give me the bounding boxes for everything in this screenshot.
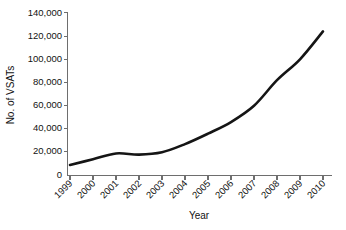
y-tick-label: 120,000	[28, 30, 62, 41]
y-tick-label: 80,000	[33, 76, 62, 87]
y-tick-label: 100,000	[28, 53, 62, 64]
y-tick-label: 140,000	[28, 7, 62, 18]
y-tick-label: 0	[57, 169, 62, 180]
line-chart: No. of VSATs 140,000 120,000 100,000 80,…	[0, 0, 346, 230]
x-axis-title: Year	[189, 210, 210, 221]
chart-figure: No. of VSATs 140,000 120,000 100,000 80,…	[0, 0, 346, 230]
y-tick-label: 40,000	[33, 122, 62, 133]
y-tick-label: 20,000	[33, 145, 62, 156]
y-tick-label: 60,000	[33, 99, 62, 110]
y-axis-title: No. of VSATs	[5, 66, 16, 125]
